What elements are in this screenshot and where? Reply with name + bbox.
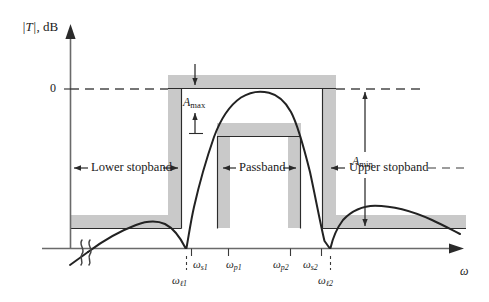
shade-passband-left-wall [217, 123, 230, 228]
x-axis-label: ω [460, 265, 468, 277]
y-axis-label-magnitude: |T| [22, 19, 36, 34]
shade-lower-stopband-wall [168, 75, 181, 228]
tick-label-wp1: ωp1 [226, 259, 242, 272]
figure-container: |T|, dB 0 Amax Amin Lower stopband Passb… [0, 0, 489, 302]
tick-label-wl2: ωℓ2 [318, 275, 333, 288]
specification-outline [70, 89, 466, 229]
zero-db-label: 0 [50, 82, 56, 94]
amax-label: Amax [183, 96, 205, 110]
shade-upper-stopband-wall [323, 75, 336, 228]
y-axis-arrowhead [65, 24, 75, 39]
shade-top-bar [168, 75, 336, 88]
filter-specification-plot [0, 0, 489, 302]
passband-label: Passband [239, 161, 286, 174]
tick-label-ws1: ωs1 [193, 259, 208, 272]
tick-label-wl1: ωℓ1 [172, 275, 187, 288]
transmission-response-curve [70, 92, 460, 265]
x-axis-arrowhead [449, 244, 464, 254]
y-axis-label-unit: , dB [36, 19, 58, 34]
upper-stopband-label: Upper stopband [349, 161, 429, 174]
lower-stopband-label: Lower stopband [91, 161, 172, 174]
shade-lower-stopband-floor [70, 215, 181, 228]
curve-left-tail [70, 252, 88, 265]
tick-label-ws2: ωs2 [303, 259, 318, 272]
shaded-specification-mask [70, 75, 466, 228]
shade-passband-top-bar [217, 123, 301, 136]
tick-label-wp2: ωp2 [273, 259, 289, 272]
y-axis-label: |T|, dB [22, 20, 58, 33]
shade-passband-right-wall [288, 123, 301, 228]
